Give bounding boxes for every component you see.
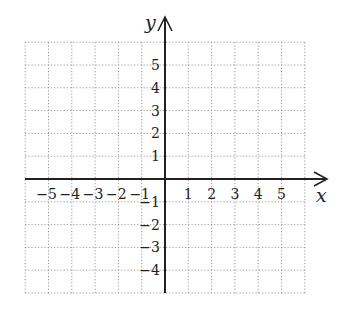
- y-tick-label: −1: [139, 194, 160, 210]
- x-tick-label: 3: [230, 186, 239, 202]
- x-tick-label: 2: [207, 186, 216, 202]
- y-tick-labels: 54321−1−2−3−4: [139, 57, 160, 278]
- y-tick-label: 3: [151, 103, 160, 119]
- y-tick-label: −3: [139, 239, 160, 255]
- y-tick-label: 1: [151, 148, 160, 164]
- x-tick-label: 1: [184, 186, 193, 202]
- y-tick-label: 2: [151, 125, 160, 141]
- y-tick-label: −4: [139, 262, 160, 278]
- x-tick-labels: −5−4−3−2−112345: [36, 186, 286, 202]
- y-tick-label: 4: [151, 80, 160, 96]
- y-tick-label: −2: [139, 217, 160, 233]
- x-tick-label: −2: [106, 186, 127, 202]
- x-tick-label: −4: [59, 186, 80, 202]
- x-tick-label: 4: [254, 186, 263, 202]
- x-tick-label: −3: [83, 186, 104, 202]
- x-tick-label: 5: [277, 186, 286, 202]
- y-axis-label: y: [144, 11, 156, 33]
- x-tick-label: −5: [36, 186, 57, 202]
- y-tick-label: 5: [151, 57, 160, 73]
- x-axis-label: x: [316, 184, 327, 206]
- coordinate-plane: x y −5−4−3−2−112345 54321−1−2−3−4: [0, 0, 338, 310]
